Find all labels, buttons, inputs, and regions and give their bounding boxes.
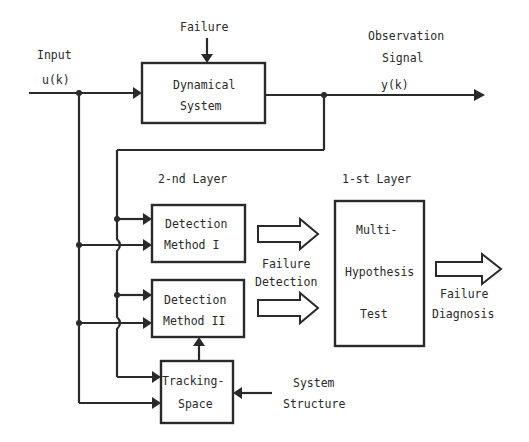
detection-method-2-line2: Method II (163, 314, 225, 328)
detection-method-1-line1: Detection (165, 217, 227, 231)
detection-method-1-block: Detection Method I (152, 205, 245, 262)
tracking-space-line1: Tracking- (162, 374, 224, 388)
tracking-to-det2-arrow (193, 337, 205, 361)
output-bus (114, 150, 120, 377)
detection-method-1-line2: Method I (164, 238, 219, 252)
input-signal-label: u(k) (42, 73, 70, 87)
mht-to-diagnosis-hollow-arrow (436, 254, 501, 284)
tracking-space-line2: Space (178, 397, 213, 411)
system-label: System (293, 376, 335, 390)
failure-diagnosis-line1: Failure (440, 287, 489, 301)
failure-label: Failure (180, 20, 229, 34)
failure-detection-line2: Detection (255, 275, 317, 289)
first-layer-label: 1-st Layer (342, 172, 411, 186)
signal-label: Signal (382, 51, 424, 65)
dynamical-system-block: Dynamical System (142, 63, 265, 123)
dynamical-system-line1: Dynamical (173, 78, 235, 92)
mht-line2: Hypothesis (345, 265, 414, 279)
input-label: Input (37, 48, 72, 62)
failure-detection-line1: Failure (262, 257, 311, 271)
tracking-space-block: Tracking- Space (161, 361, 233, 423)
structure-label: Structure (283, 397, 345, 411)
failure-arrow (201, 38, 213, 63)
tracking-inputs (79, 371, 161, 409)
det1-to-mht-hollow-arrow (258, 219, 318, 249)
second-layer-label: 2-nd Layer (158, 172, 227, 186)
input-bus (76, 93, 82, 403)
detection-method-2-line1: Detection (164, 293, 226, 307)
dynamical-system-line2: System (180, 99, 222, 113)
mht-line1: Multi- (356, 223, 398, 237)
failure-diagnosis-line2: Diagnosis (432, 307, 494, 321)
detection-method-2-block: Detection Method II (152, 280, 244, 337)
det2-to-mht-hollow-arrow (258, 293, 318, 323)
multi-hypothesis-test-block: Multi- Hypothesis Test (335, 201, 424, 346)
mht-line3: Test (360, 307, 388, 321)
system-structure-arrow (233, 387, 272, 399)
input-line (29, 87, 142, 99)
observation-label: Observation (368, 29, 444, 43)
output-signal-label: y(k) (381, 78, 409, 92)
failure-diagnosis-block-diagram: Failure Input u(k) Observation Signal y(… (0, 0, 529, 442)
